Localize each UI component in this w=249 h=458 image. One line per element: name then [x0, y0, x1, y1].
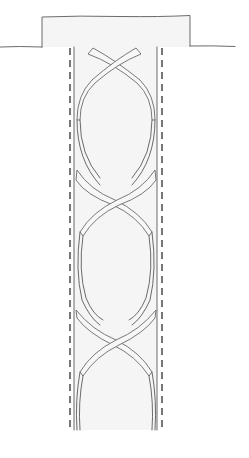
shaft-body: [74, 47, 157, 430]
cap-fill: [42, 16, 190, 47]
drawing-canvas: [0, 0, 249, 458]
ground-line-right: [190, 46, 235, 47]
pile-helix-diagram: [0, 0, 249, 458]
ground-line-left: [0, 47, 42, 48]
